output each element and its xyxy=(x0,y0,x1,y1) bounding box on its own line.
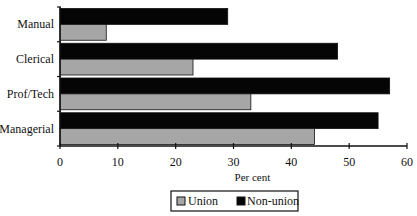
bar-non-union-manual xyxy=(60,9,228,25)
x-tick-label: 10 xyxy=(112,155,124,169)
x-tick-label: 0 xyxy=(57,155,63,169)
category-label: Clerical xyxy=(16,52,55,66)
x-tick-label: 20 xyxy=(170,155,182,169)
bar-non-union-managerial xyxy=(60,113,378,129)
bar-union-manual xyxy=(60,24,106,40)
category-label: Managerial xyxy=(0,122,55,136)
x-tick-label: 40 xyxy=(285,155,297,169)
x-tick-label: 50 xyxy=(343,155,355,169)
bar-union-prof-tech xyxy=(60,94,251,110)
bars-layer xyxy=(60,9,390,145)
legend-swatch-union xyxy=(177,197,185,205)
x-axis-title: Per cent xyxy=(235,171,271,183)
bar-chart-svg: ManualClericalProf/TechManagerial 010203… xyxy=(0,0,417,216)
x-tick-label: 60 xyxy=(401,155,413,169)
bar-non-union-prof-tech xyxy=(60,78,390,94)
legend-label-union: Union xyxy=(188,194,218,208)
bar-non-union-clerical xyxy=(60,43,338,59)
legend-label-non-union: Non-union xyxy=(247,194,299,208)
legend: Union Non-union xyxy=(171,191,299,211)
x-tick-label: 30 xyxy=(228,155,240,169)
category-labels: ManualClericalProf/TechManagerial xyxy=(0,17,55,135)
category-label: Prof/Tech xyxy=(7,87,54,101)
legend-swatch-non-union xyxy=(237,197,245,205)
bar-union-clerical xyxy=(60,59,193,75)
category-label: Manual xyxy=(17,17,54,31)
bar-union-managerial xyxy=(60,129,314,145)
chart: ManualClericalProf/TechManagerial 010203… xyxy=(0,0,417,216)
x-ticks: 0102030405060 xyxy=(57,143,413,169)
